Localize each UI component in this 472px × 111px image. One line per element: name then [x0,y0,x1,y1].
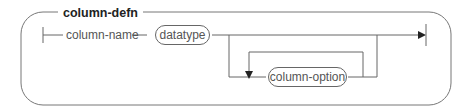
arrow-down-icon [245,71,253,79]
arrow-right-icon [418,31,426,39]
column-name-label: column-name [66,28,139,42]
datatype-node: datatype [155,25,210,45]
column-option-node: column-option [268,67,347,87]
diagram-title: column-defn [58,6,143,20]
outer-frame [21,12,451,105]
